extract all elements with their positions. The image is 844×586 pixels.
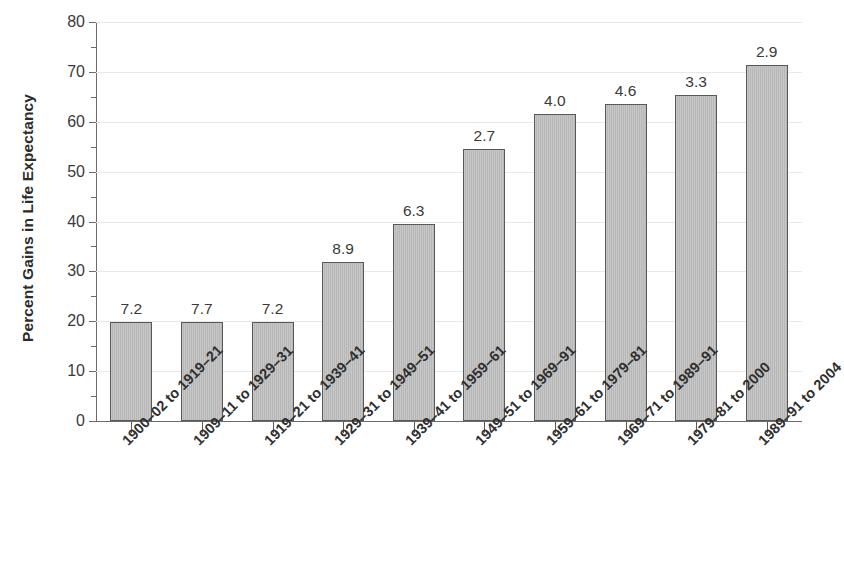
y-tick-minor-45 (91, 197, 96, 198)
y-tick-20 (89, 321, 96, 322)
y-tick-label-10: 10 (67, 362, 85, 380)
y-tick-70 (89, 72, 96, 73)
y-tick-label-20: 20 (67, 312, 85, 330)
bar-value-label: 2.7 (474, 127, 496, 145)
y-tick-50 (89, 172, 96, 173)
bar-value-label: 7.7 (191, 300, 213, 318)
bar-value-label: 7.2 (121, 300, 143, 318)
y-axis-title: Percent Gains in Life Expectancy (8, 8, 48, 428)
bar: 8.9 (322, 262, 364, 421)
y-tick-0 (89, 421, 96, 422)
y-tick-label-50: 50 (67, 163, 85, 181)
bar: 7.2 (110, 322, 152, 421)
y-tick-label-70: 70 (67, 63, 85, 81)
y-tick-label-30: 30 (67, 262, 85, 280)
y-tick-minor-55 (91, 147, 96, 148)
y-tick-minor-5 (91, 396, 96, 397)
y-tick-label-0: 0 (76, 412, 85, 430)
bar-value-label: 7.2 (262, 300, 284, 318)
y-tick-minor-35 (91, 246, 96, 247)
gridline-80 (96, 22, 802, 23)
y-tick-40 (89, 222, 96, 223)
y-tick-minor-15 (91, 346, 96, 347)
y-tick-minor-65 (91, 97, 96, 98)
y-tick-10 (89, 371, 96, 372)
y-tick-minor-25 (91, 296, 96, 297)
bar-value-label: 8.9 (332, 240, 354, 258)
y-tick-label-40: 40 (67, 213, 85, 231)
y-tick-80 (89, 22, 96, 23)
y-tick-label-60: 60 (67, 113, 85, 131)
bar-value-label: 3.3 (685, 73, 707, 91)
y-tick-label-80: 80 (67, 13, 85, 31)
y-tick-minor-75 (91, 47, 96, 48)
bar-value-label: 4.6 (615, 82, 637, 100)
y-tick-60 (89, 122, 96, 123)
bar-value-label: 6.3 (403, 202, 425, 220)
y-tick-30 (89, 271, 96, 272)
bar-value-label: 2.9 (756, 43, 778, 61)
bar-value-label: 4.0 (544, 92, 566, 110)
